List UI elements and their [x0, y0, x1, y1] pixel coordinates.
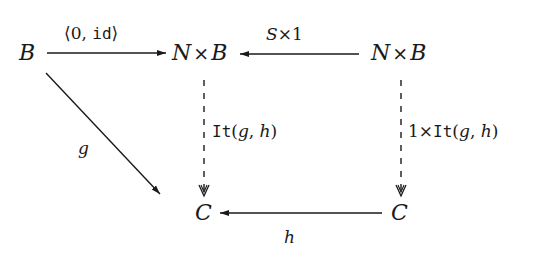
- label-g-arg: g: [459, 121, 470, 141]
- node-b-label: B: [211, 40, 227, 65]
- label-one: 1: [408, 121, 419, 141]
- label-it-g-h: It(g, h): [212, 123, 277, 140]
- node-b-label: B: [410, 40, 426, 65]
- comma: ,: [470, 121, 481, 141]
- times-operator: ×: [419, 121, 433, 141]
- label-g: g: [78, 140, 89, 157]
- paren-open: (: [452, 121, 459, 141]
- angle-close: ⟩: [112, 23, 119, 43]
- node-c-right: C: [391, 202, 408, 224]
- node-c-left: C: [195, 202, 212, 224]
- node-n-times-b-center: N×B: [172, 42, 227, 64]
- paren-close: ): [271, 121, 278, 141]
- label-s-times-1: S×1: [266, 26, 303, 43]
- paren-close: ): [492, 121, 499, 141]
- label-1-times-it-g-h: 1×It(g, h): [408, 123, 498, 140]
- label-h-text: h: [284, 227, 295, 247]
- times-operator: ×: [278, 24, 292, 44]
- label-g-text: g: [78, 138, 89, 158]
- label-it: It: [212, 122, 231, 141]
- label-one: 1: [292, 24, 303, 44]
- node-c-label: C: [391, 200, 408, 225]
- commutative-diagram: B N×B N×B C C ⟨0, id⟩ S×1 g It(g, h) 1×I…: [0, 0, 540, 261]
- times-operator: ×: [390, 42, 410, 64]
- label-pair-0-id: ⟨0, id⟩: [64, 25, 118, 42]
- label-h-arg: h: [481, 121, 492, 141]
- label-it: It: [433, 122, 452, 141]
- node-n-label: N: [172, 40, 191, 65]
- times-operator: ×: [191, 42, 211, 64]
- label-h: h: [284, 229, 295, 246]
- comma: ,: [249, 121, 260, 141]
- label-h-arg: h: [260, 121, 271, 141]
- arrow-g: [46, 73, 160, 194]
- node-c-label: C: [195, 200, 212, 225]
- node-n-times-b-right: N×B: [371, 42, 426, 64]
- label-g-arg: g: [238, 121, 249, 141]
- paren-open: (: [231, 121, 238, 141]
- node-b-label: B: [19, 40, 35, 65]
- label-zero: 0,: [71, 23, 93, 43]
- node-n-label: N: [371, 40, 390, 65]
- node-b: B: [19, 42, 35, 64]
- label-s: S: [266, 24, 278, 44]
- angle-open: ⟨: [64, 23, 71, 43]
- label-id: id: [92, 24, 111, 43]
